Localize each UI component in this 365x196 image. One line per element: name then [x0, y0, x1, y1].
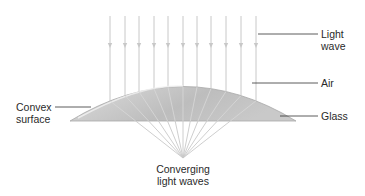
air-label: Air	[321, 77, 334, 89]
refraction-diagram: Light wave Air Convex surface Glass Conv…	[0, 0, 365, 196]
converging-light-rays	[136, 121, 231, 158]
glass-label: Glass	[321, 110, 348, 122]
arrow-down-icon	[224, 43, 228, 48]
arrow-down-icon	[195, 43, 199, 48]
converging-ray	[149, 121, 183, 158]
arrow-down-icon	[181, 43, 185, 48]
convex-surface-label-line1: Convex	[16, 101, 52, 113]
converging-light-waves-label: Converging light waves	[148, 163, 218, 187]
arrow-down-icon	[166, 43, 170, 48]
arrow-down-icon	[152, 43, 156, 48]
converging-ray	[183, 121, 217, 158]
arrow-down-icon	[254, 43, 258, 48]
light-wave-label-line1: Light	[321, 28, 346, 40]
arrow-down-icon	[209, 43, 213, 48]
arrow-down-icon	[108, 43, 112, 48]
light-wave-label-line2: wave	[321, 40, 346, 52]
converging-label-line2: light waves	[148, 175, 218, 187]
arrow-down-icon	[239, 43, 243, 48]
convex-surface-label-line2: surface	[16, 113, 52, 125]
converging-label-line1: Converging	[148, 163, 218, 175]
light-wave-label: Light wave	[321, 28, 346, 52]
arrow-down-icon	[123, 43, 127, 48]
convex-surface-label: Convex surface	[16, 101, 52, 125]
glass-label-text: Glass	[321, 110, 348, 122]
arrow-down-icon	[137, 43, 141, 48]
air-label-text: Air	[321, 77, 334, 89]
